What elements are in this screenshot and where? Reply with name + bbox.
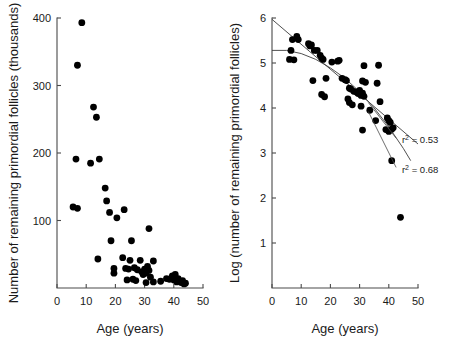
data-point xyxy=(73,156,80,163)
data-point xyxy=(121,206,128,213)
x-tick-label: 20 xyxy=(324,295,336,307)
data-point xyxy=(343,77,350,84)
data-point xyxy=(127,257,134,264)
y-axis-title: Log (number of remaining primordial foll… xyxy=(227,23,242,283)
data-point xyxy=(328,59,335,66)
x-tick-label: 30 xyxy=(353,295,365,307)
data-point xyxy=(78,19,85,26)
figure-container: 10020030040001020304050Age (years)Number… xyxy=(0,0,450,349)
data-point xyxy=(106,209,113,216)
data-point xyxy=(289,36,296,43)
x-tick-label: 10 xyxy=(80,295,92,307)
data-point xyxy=(102,185,109,192)
data-point xyxy=(87,160,94,167)
data-point xyxy=(137,257,144,264)
data-point xyxy=(94,256,101,263)
x-axis-title: Age (years) xyxy=(96,321,163,336)
x-tick-label: 50 xyxy=(197,295,209,307)
data-point xyxy=(359,127,366,134)
data-point xyxy=(362,79,369,86)
y-tick-label: 400 xyxy=(33,12,51,24)
data-point xyxy=(288,47,295,54)
y-tick-label: 1 xyxy=(260,237,266,249)
data-point xyxy=(397,214,404,221)
data-point xyxy=(375,62,382,69)
data-point xyxy=(150,258,157,265)
quadratic-fit xyxy=(272,50,411,160)
data-point xyxy=(361,62,368,69)
data-point xyxy=(150,279,157,286)
data-point xyxy=(336,57,343,64)
y-tick-label: 2 xyxy=(260,192,266,204)
y-tick-label: 200 xyxy=(33,147,51,159)
x-tick-label: 40 xyxy=(383,295,395,307)
y-tick-label: 300 xyxy=(33,80,51,92)
data-point xyxy=(349,101,356,108)
data-point xyxy=(93,114,100,121)
data-point xyxy=(74,205,81,212)
data-point xyxy=(361,93,368,100)
data-point xyxy=(124,277,131,284)
r2-linear-annotation: r2 = 0.53 xyxy=(402,134,438,146)
data-point xyxy=(157,278,164,285)
x-tick-label: 30 xyxy=(138,295,150,307)
data-point xyxy=(321,93,328,100)
r2-linear-annotation-value: = 0.53 xyxy=(409,134,438,145)
right-plot-svg: 12345601020304050r2 = 0.53r2 = 0.68Age (… xyxy=(225,0,450,349)
data-point xyxy=(182,280,189,287)
data-point xyxy=(323,75,330,82)
data-point xyxy=(291,56,298,63)
data-point xyxy=(374,80,381,87)
data-point xyxy=(108,237,115,244)
data-point xyxy=(295,36,302,43)
left-plot-svg: 10020030040001020304050Age (years)Number… xyxy=(0,0,225,349)
x-tick-label: 0 xyxy=(269,295,275,307)
data-point xyxy=(390,124,397,131)
data-point xyxy=(111,270,118,277)
data-point xyxy=(320,56,327,63)
y-tick-label: 5 xyxy=(260,57,266,69)
x-tick-label: 20 xyxy=(109,295,121,307)
data-point xyxy=(146,267,153,274)
r2-quadratic-annotation: r2 = 0.68 xyxy=(402,164,438,176)
data-point xyxy=(113,214,120,221)
data-point xyxy=(358,103,365,110)
y-tick-label: 6 xyxy=(260,12,266,24)
x-tick-label: 50 xyxy=(412,295,424,307)
data-point xyxy=(143,279,150,286)
x-tick-label: 10 xyxy=(295,295,307,307)
y-tick-label: 3 xyxy=(260,147,266,159)
r2-quadratic-annotation-value: = 0.68 xyxy=(409,164,438,175)
data-point xyxy=(146,225,153,232)
data-point xyxy=(74,62,81,69)
y-tick-label: 100 xyxy=(33,215,51,227)
data-point xyxy=(90,104,97,111)
y-axis-title: Number of remaining primordial follicles… xyxy=(6,3,21,304)
data-point xyxy=(132,277,139,284)
scatter-panel-left: 10020030040001020304050Age (years)Number… xyxy=(0,0,225,349)
data-point xyxy=(125,266,132,273)
scatter-panel-right: 12345601020304050r2 = 0.53r2 = 0.68Age (… xyxy=(225,0,450,349)
data-point xyxy=(309,77,316,84)
y-tick-label: 4 xyxy=(260,102,266,114)
data-point xyxy=(103,198,110,205)
data-point xyxy=(377,98,384,105)
data-point xyxy=(96,156,103,163)
x-tick-label: 40 xyxy=(168,295,180,307)
data-point xyxy=(119,254,126,261)
data-point xyxy=(128,237,135,244)
x-axis-title: Age (years) xyxy=(311,321,378,336)
axis-spines xyxy=(57,18,203,288)
x-tick-label: 0 xyxy=(54,295,60,307)
